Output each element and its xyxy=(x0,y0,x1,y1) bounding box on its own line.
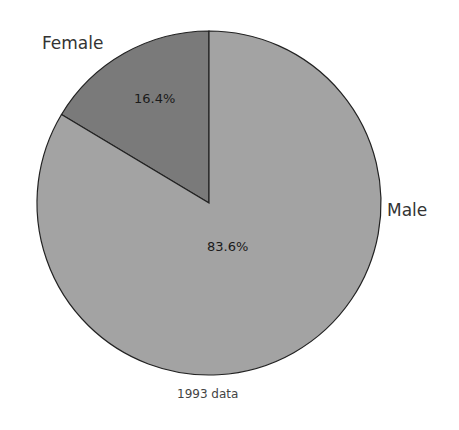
chart-caption: 1993 data xyxy=(177,387,238,401)
male-percentage: 83.6% xyxy=(207,239,248,254)
male-label: Male xyxy=(387,200,427,220)
female-percentage: 16.4% xyxy=(134,91,175,106)
female-label: Female xyxy=(42,33,103,53)
